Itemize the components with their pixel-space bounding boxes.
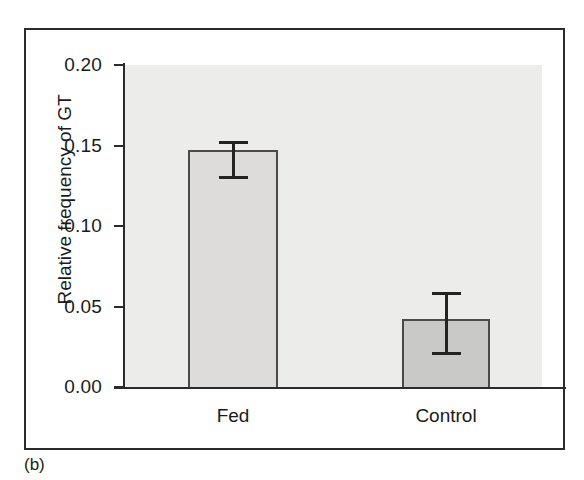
bar-fed: [188, 150, 278, 387]
errorbar-cap-lower-fed: [219, 176, 248, 179]
y-axis-title: Relative frequency of GT: [55, 70, 74, 330]
y-tick-label-0: 0.00: [64, 377, 102, 396]
y-tick-mark-2: [114, 225, 125, 227]
y-tick-mark-1: [114, 306, 125, 308]
x-tick-label-control: Control: [386, 406, 506, 426]
errorbar-stem-control: [445, 292, 448, 355]
errorbar-cap-upper-fed: [219, 141, 248, 144]
errorbar-stem-fed: [232, 141, 235, 180]
y-tick-mark-4: [114, 64, 125, 66]
x-axis-line: [114, 387, 566, 389]
errorbar-cap-upper-control: [432, 292, 461, 295]
figure-frame: 0.00 0.05 0.10 0.15 0.20 Relative freque…: [24, 28, 565, 450]
panel-caption: (b): [24, 455, 45, 475]
y-tick-mark-3: [114, 145, 125, 147]
x-tick-label-fed: Fed: [173, 406, 293, 426]
y-tick-mark-0: [114, 386, 125, 388]
errorbar-cap-lower-control: [432, 352, 461, 355]
